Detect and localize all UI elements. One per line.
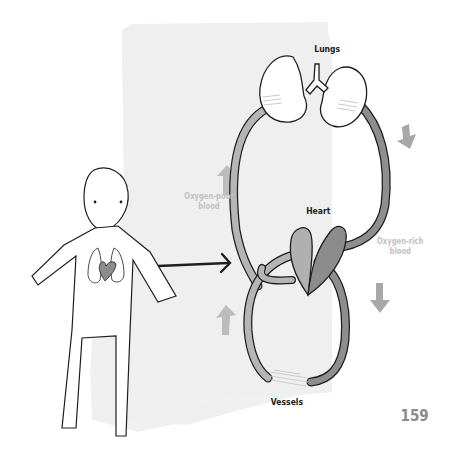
circulation-diagram: Lungs Heart Vessels Oxygen-poor blood Ox… xyxy=(0,0,459,457)
heart-label: Heart xyxy=(306,206,330,217)
oxygen-poor-label: Oxygen-poor blood xyxy=(184,192,233,211)
lungs-label: Lungs xyxy=(314,44,340,55)
arrow-down-icon xyxy=(397,124,416,149)
oxygen-poor-line-2: blood xyxy=(184,202,233,212)
oxygen-rich-label: Oxygen-rich blood xyxy=(377,237,423,256)
page-number: 159 xyxy=(401,407,429,425)
oxygen-poor-line-1: Oxygen-poor xyxy=(184,192,233,202)
arrow-down-icon xyxy=(370,283,390,313)
oxygen-rich-line-2: blood xyxy=(377,247,423,257)
oxygen-rich-line-1: Oxygen-rich xyxy=(377,237,423,247)
vessels-label: Vessels xyxy=(271,397,303,408)
